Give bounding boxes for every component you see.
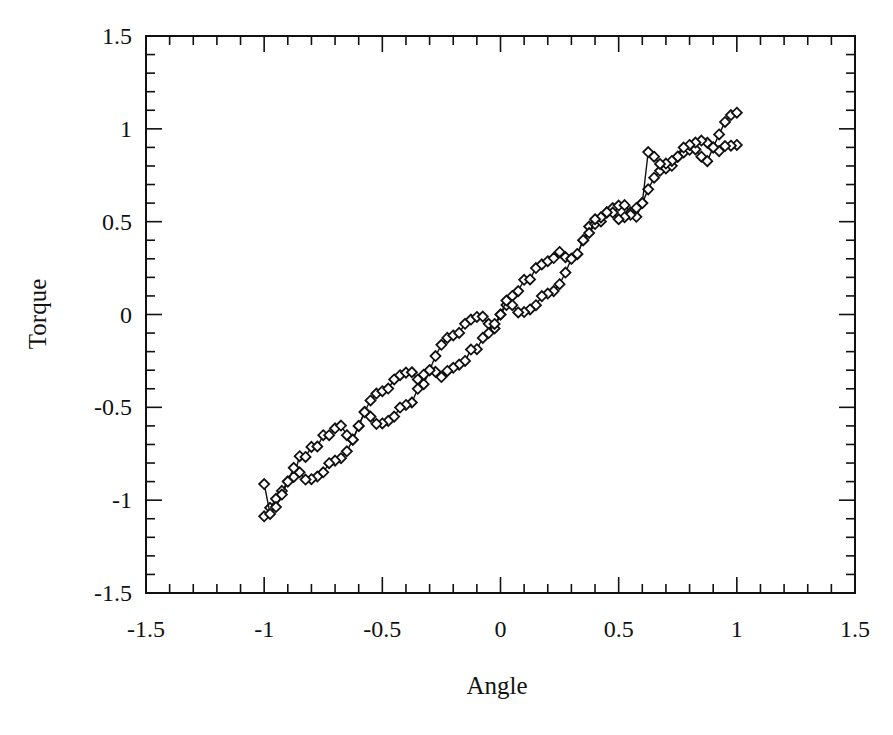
y-tick-label: 0	[120, 302, 132, 328]
series-decreasing	[259, 136, 742, 519]
x-tick-label: 0	[495, 616, 507, 642]
x-tick-label: 1.5	[840, 616, 870, 642]
diamond-marker	[714, 129, 724, 139]
y-tick-label: 1.5	[102, 23, 132, 49]
torque-angle-chart: -1.5-1-0.500.511.5-1.5-1-0.500.511.5 Ang…	[0, 0, 893, 735]
y-tick-label: 0.5	[102, 209, 132, 235]
diamond-marker	[354, 421, 364, 431]
y-tick-label: -1.5	[94, 580, 132, 606]
x-tick-label: 0.5	[604, 616, 634, 642]
diamond-marker	[560, 268, 570, 278]
x-tick-label: -1	[254, 616, 274, 642]
diamond-marker	[431, 351, 441, 361]
x-tick-label: -1.5	[127, 616, 165, 642]
y-tick-label: -0.5	[94, 394, 132, 420]
diamond-marker	[496, 310, 506, 320]
diamond-marker	[259, 479, 269, 489]
y-axis-label: Torque	[24, 279, 51, 349]
y-tick-label: -1	[112, 487, 132, 513]
x-tick-label: -0.5	[363, 616, 401, 642]
x-tick-label: 1	[731, 616, 743, 642]
data-series	[259, 108, 742, 522]
x-axis-label: Angle	[466, 672, 527, 699]
y-tick-label: 1	[120, 116, 132, 142]
